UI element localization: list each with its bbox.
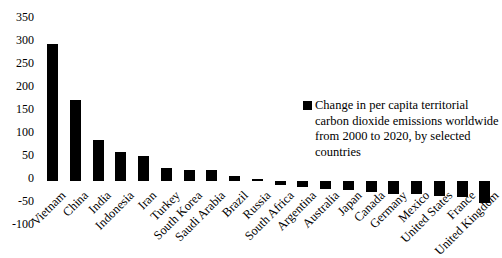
bar-iran (138, 156, 149, 181)
y-tick-label: 300 (0, 34, 34, 47)
bar-indonesia (115, 152, 126, 181)
y-tick-label: 0 (0, 172, 34, 185)
y-tick-label: 350 (0, 11, 34, 24)
bar-argentina (297, 181, 308, 187)
bar-india (93, 140, 104, 181)
y-tick-label: 150 (0, 103, 34, 116)
bar-russia (252, 179, 263, 181)
chart-legend: Change in per capita territorial carbon … (303, 98, 499, 160)
bar-turkey (161, 168, 172, 181)
bar-south-africa (275, 181, 286, 185)
y-tick-label: 200 (0, 80, 34, 93)
bar-saudi-arabia (206, 170, 217, 181)
legend-square-marker-icon (303, 101, 312, 110)
legend-label: Change in per capita territorial carbon … (315, 98, 499, 160)
bar-south-korea (184, 170, 195, 181)
bar-vietnam (47, 44, 58, 181)
y-tick-label: -100 (0, 218, 34, 231)
y-tick-label: -50 (0, 195, 34, 208)
bar-china (70, 100, 81, 181)
y-tick-label: 250 (0, 57, 34, 70)
bar-australia (320, 181, 331, 189)
y-tick-label: 100 (0, 126, 34, 139)
bar-brazil (229, 176, 240, 181)
bar-japan (343, 181, 354, 190)
bar-chart: 350300250200150100500-50-100 VietnamChin… (0, 0, 502, 258)
y-tick-label: 50 (0, 149, 34, 162)
